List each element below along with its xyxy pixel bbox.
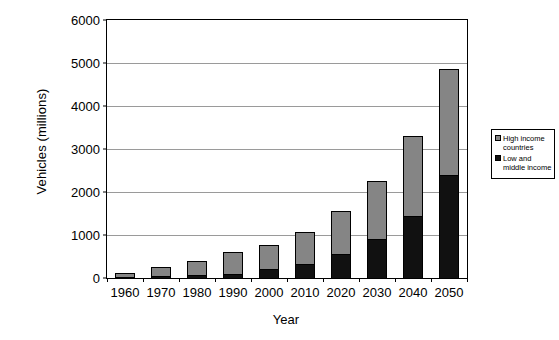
bar-segment-low-and-middle-income[interactable] (259, 269, 279, 278)
y-tick-label: 5000 (71, 56, 107, 71)
x-tick-mark (107, 278, 108, 282)
x-tick-mark (143, 278, 144, 282)
x-tick-mark (287, 278, 288, 282)
x-tick-label-2000: 2000 (255, 285, 284, 300)
y-tick-label: 6000 (71, 13, 107, 28)
legend-swatch-icon (495, 135, 501, 141)
bar-segment-low-and-middle-income[interactable] (403, 216, 423, 278)
x-tick-label-2050: 2050 (435, 285, 464, 300)
x-tick-mark (251, 278, 252, 282)
bar-2040[interactable] (403, 136, 423, 278)
bar-1990[interactable] (223, 252, 243, 278)
bar-segment-high-income-countries[interactable] (331, 211, 351, 254)
bar-segment-low-and-middle-income[interactable] (439, 175, 459, 278)
bar-segment-high-income-countries[interactable] (403, 136, 423, 216)
y-axis-title: Vehicles (millions) (34, 52, 49, 232)
bars-layer (107, 20, 467, 278)
y-tick-label: 2000 (71, 185, 107, 200)
x-tick-mark (467, 278, 468, 282)
legend-item[interactable]: High income countries (495, 134, 552, 152)
plot-area: 0100020003000400050006000196019701980199… (106, 19, 468, 279)
bar-segment-low-and-middle-income[interactable] (295, 264, 315, 278)
x-tick-mark (323, 278, 324, 282)
x-tick-label-1980: 1980 (183, 285, 212, 300)
bar-segment-low-and-middle-income[interactable] (367, 239, 387, 278)
bar-segment-high-income-countries[interactable] (187, 261, 207, 275)
bar-1960[interactable] (115, 273, 135, 278)
x-tick-label-2030: 2030 (363, 285, 392, 300)
bar-segment-high-income-countries[interactable] (223, 252, 243, 274)
bar-1980[interactable] (187, 261, 207, 278)
y-tick-label: 1000 (71, 228, 107, 243)
bar-2030[interactable] (367, 181, 387, 278)
y-tick-label: 3000 (71, 142, 107, 157)
x-tick-mark (395, 278, 396, 282)
chart-legend: High income countriesLow and middle inco… (491, 129, 555, 179)
bar-2050[interactable] (439, 69, 459, 278)
bar-2000[interactable] (259, 245, 279, 278)
bar-segment-low-and-middle-income[interactable] (151, 276, 171, 278)
bar-segment-low-and-middle-income[interactable] (331, 254, 351, 278)
legend-swatch-icon (495, 155, 501, 161)
bar-segment-low-and-middle-income[interactable] (187, 275, 207, 278)
x-tick-mark (215, 278, 216, 282)
bar-2020[interactable] (331, 211, 351, 278)
legend-label: Low and middle income (503, 154, 552, 172)
x-tick-mark (179, 278, 180, 282)
bar-segment-low-and-middle-income[interactable] (223, 274, 243, 278)
x-tick-label-1990: 1990 (219, 285, 248, 300)
x-axis-title: Year (106, 312, 466, 327)
bar-segment-high-income-countries[interactable] (439, 69, 459, 174)
x-tick-label-2010: 2010 (291, 285, 320, 300)
bar-segment-high-income-countries[interactable] (259, 245, 279, 269)
x-tick-label-1970: 1970 (147, 285, 176, 300)
x-tick-label-2020: 2020 (327, 285, 356, 300)
bar-1970[interactable] (151, 267, 171, 278)
y-tick-label: 0 (93, 271, 107, 286)
bar-segment-low-and-middle-income[interactable] (115, 277, 135, 278)
x-tick-label-1960: 1960 (111, 285, 140, 300)
bar-chart-figure: Vehicles (millions) 01000200030004000500… (0, 0, 559, 340)
bar-segment-high-income-countries[interactable] (295, 232, 315, 264)
x-tick-mark (431, 278, 432, 282)
y-tick-label: 4000 (71, 99, 107, 114)
x-tick-mark (359, 278, 360, 282)
bar-segment-high-income-countries[interactable] (151, 267, 171, 276)
bar-segment-high-income-countries[interactable] (367, 181, 387, 239)
legend-item[interactable]: Low and middle income (495, 154, 552, 172)
legend-label: High income countries (503, 134, 552, 152)
x-tick-label-2040: 2040 (399, 285, 428, 300)
bar-2010[interactable] (295, 232, 315, 278)
